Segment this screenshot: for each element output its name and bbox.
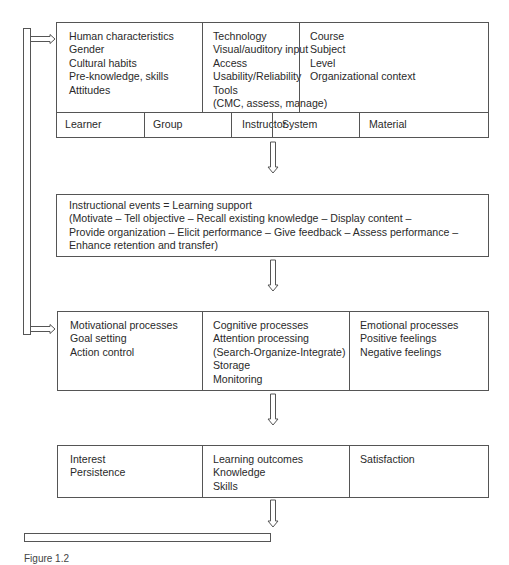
text-line: Provide organization – Elicit performanc… (69, 226, 488, 239)
text-line: Tools (213, 84, 299, 97)
outcomes-box: Interest Persistence Learning outcomes K… (57, 445, 489, 498)
text-line: Monitoring (213, 373, 349, 386)
text-line: Subject (310, 43, 488, 56)
satisfaction-column: Satisfaction (349, 446, 488, 497)
feedback-arrow-top-icon (31, 35, 55, 44)
instructional-events-text: Instructional events = Learning support … (57, 195, 488, 256)
text-line: Pre-knowledge, skills (69, 70, 201, 83)
text-line: Skills (213, 480, 349, 493)
text-line: Technology (213, 30, 299, 43)
down-arrow-4-icon (268, 500, 278, 527)
text-line: Cultural habits (69, 57, 201, 70)
down-arrow-3-icon (268, 394, 278, 425)
text-line: Negative feelings (360, 346, 488, 359)
course-column: Course Subject Level Organizational cont… (299, 23, 488, 113)
text-line: Usability/Reliability (213, 70, 299, 83)
text-line: Action control (70, 346, 202, 359)
text-line: Enhance retention and transfer) (69, 239, 488, 252)
text-line: Cognitive processes (213, 319, 349, 332)
text-line: Storage (213, 359, 349, 372)
text-line: Positive feelings (360, 332, 488, 345)
text-line: Human characteristics (69, 30, 201, 43)
text-line: (CMC, assess, manage) (213, 97, 299, 110)
text-line: Motivational processes (70, 319, 202, 332)
tab-group: Group (144, 113, 231, 137)
cognitive-column: Cognitive processes Attention processing… (202, 312, 349, 390)
source-tabs: Learner Group Instructor System Material (57, 112, 488, 137)
text-line: Emotional processes (360, 319, 488, 332)
text-line: (Search-Organize-Integrate) (213, 346, 349, 359)
text-line: Attention processing (213, 332, 349, 345)
interest-column: Interest Persistence (58, 446, 202, 497)
tab-system: System (272, 113, 359, 137)
text-line: Instructional events = Learning support (69, 199, 488, 212)
instructional-events-box: Instructional events = Learning support … (56, 194, 489, 257)
text-line: Course (310, 30, 488, 43)
tab-learner: Learner (57, 113, 144, 137)
text-line: Visual/auditory input (213, 43, 299, 56)
text-line: Level (310, 57, 488, 70)
text-line: Interest (70, 453, 202, 466)
text-line: (Motivate – Tell objective – Recall exis… (69, 212, 488, 225)
tab-material: Material (359, 113, 488, 137)
text-line: Goal setting (70, 332, 202, 345)
human-characteristics-column: Human characteristics Gender Cultural ha… (57, 23, 201, 113)
text-line: Learning outcomes (213, 453, 349, 466)
text-line: Gender (69, 43, 201, 56)
text-line: Attitudes (69, 84, 201, 97)
input-factors-box: Human characteristics Gender Cultural ha… (56, 22, 489, 138)
text-line: Knowledge (213, 466, 349, 479)
learning-outcomes-column: Learning outcomes Knowledge Skills (202, 446, 349, 497)
text-line: Satisfaction (360, 453, 488, 466)
text-line: Persistence (70, 466, 202, 479)
text-line: Access (213, 57, 299, 70)
figure-caption: Figure 1.2 (24, 552, 69, 565)
down-arrow-1-icon (268, 142, 278, 173)
feedback-arrow-process-icon (31, 325, 55, 334)
text-line: Organizational context (310, 70, 488, 83)
motivational-column: Motivational processes Goal setting Acti… (58, 312, 202, 390)
emotional-column: Emotional processes Positive feelings Ne… (349, 312, 488, 390)
processes-box: Motivational processes Goal setting Acti… (57, 311, 489, 391)
down-arrow-2-icon (268, 260, 278, 291)
technology-column: Technology Visual/auditory input Access … (202, 23, 299, 113)
